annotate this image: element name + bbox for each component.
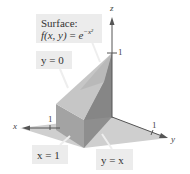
y-axis-arrow xyxy=(159,133,168,138)
z-tick-label: 1 xyxy=(118,47,123,57)
plane-label-y-eq-x-text: y = x xyxy=(101,154,124,166)
z-axis-arrow xyxy=(110,17,115,25)
plane-label-y-zero: y = 0 xyxy=(36,51,72,69)
leader-y-zero xyxy=(60,69,68,88)
y-axis-label: y xyxy=(171,134,175,144)
surface-equation-exponent: −x² xyxy=(83,28,93,36)
surface-equation-lhs: f(x, y) xyxy=(41,29,67,41)
solid-region-diagram: Surface: f(x, y) = e−x² y = 0 x = 1 y = … xyxy=(0,0,190,174)
plane-label-x-one-text: x = 1 xyxy=(37,149,60,161)
surface-label-title: Surface: xyxy=(41,17,97,29)
surface-equation-eq: = xyxy=(67,29,79,41)
z-axis-label: z xyxy=(110,3,114,13)
leader-surface xyxy=(92,42,100,62)
y-tick-label: 1 xyxy=(152,120,157,130)
surface-label: Surface: f(x, y) = e−x² xyxy=(36,14,102,43)
x-axis-label: x xyxy=(13,121,17,131)
plane-label-x-one: x = 1 xyxy=(32,145,68,164)
x-tick-label: 1 xyxy=(48,114,53,124)
plane-label-y-eq-x: y = x xyxy=(96,149,133,170)
surface-equation: f(x, y) = e−x² xyxy=(41,29,97,41)
plane-label-y-zero-text: y = 0 xyxy=(41,54,64,66)
